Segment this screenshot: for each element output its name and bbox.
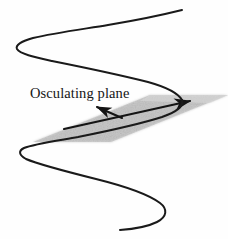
osculating-plane-shape [33, 95, 228, 142]
osculating-plane-label: Osculating plane [30, 85, 129, 101]
osculating-plane-figure: Osculating plane [0, 0, 228, 239]
figure-canvas [0, 0, 228, 239]
